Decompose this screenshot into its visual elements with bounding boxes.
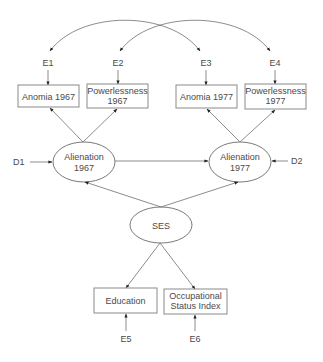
- node-label-line2: Status Index: [170, 301, 221, 311]
- error-label-e6: E6: [189, 334, 200, 344]
- node-label-line1: Alienation: [220, 152, 260, 162]
- node-label-line2: 1967: [107, 96, 127, 106]
- path-alien77-anomia77: [207, 109, 240, 142]
- covariance-arc-e2-e4: [120, 20, 270, 51]
- node-label: SES: [152, 221, 170, 231]
- error-label-e4: E4: [269, 58, 280, 68]
- node-label: Anomia 1977: [180, 92, 233, 102]
- node-alienation-1977: Alienation 1977: [209, 142, 271, 182]
- path-alien67-anomia67: [50, 108, 83, 142]
- node-label-line2: 1967: [74, 163, 94, 173]
- covariance-arc-e1-e3: [50, 20, 200, 51]
- node-label-line1: Occupational: [169, 291, 222, 301]
- node-label-line1: Powerlessness: [87, 86, 148, 96]
- node-anomia-1977: Anomia 1977: [176, 85, 237, 108]
- path-ses-alien77: [161, 182, 238, 207]
- error-label-e1: E1: [42, 58, 53, 68]
- sem-diagram: E1 E2 E3 E4 Anomia 1967 Powerlessness 19…: [0, 0, 323, 362]
- node-label-line1: Alienation: [64, 152, 104, 162]
- path-ses-alien67: [85, 182, 161, 207]
- path-ses-educ: [126, 243, 160, 288]
- error-label-e5: E5: [120, 334, 131, 344]
- node-label: Anomia 1967: [22, 92, 75, 102]
- node-powerlessness-1967: Powerlessness 1967: [87, 84, 148, 108]
- node-ses: SES: [130, 207, 192, 243]
- error-label-e2: E2: [112, 58, 123, 68]
- node-education: Education: [94, 288, 157, 313]
- path-ses-occ: [160, 243, 195, 289]
- node-label: Education: [105, 296, 145, 306]
- node-label-line1: Powerlessness: [245, 86, 306, 96]
- node-anomia-1967: Anomia 1967: [18, 85, 79, 107]
- node-label-line2: 1977: [265, 96, 285, 106]
- disturbance-label-d2: D2: [291, 156, 303, 166]
- node-occupational-status-index: Occupational Status Index: [164, 289, 227, 314]
- node-alienation-1967: Alienation 1967: [53, 142, 115, 182]
- error-label-e3: E3: [200, 58, 211, 68]
- disturbance-label-d1: D1: [13, 157, 25, 167]
- path-alien67-power67: [83, 109, 117, 142]
- path-alien77-power77: [240, 110, 275, 142]
- node-powerlessness-1977: Powerlessness 1977: [245, 84, 306, 109]
- node-label-line2: 1977: [230, 163, 250, 173]
